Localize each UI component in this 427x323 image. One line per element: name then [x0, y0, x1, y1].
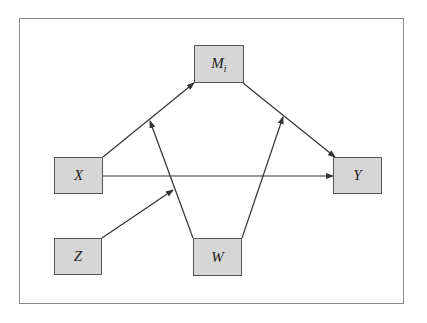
- node-subscript: i: [224, 63, 227, 74]
- node-x: X: [54, 157, 103, 194]
- edge-x-to-m: [103, 83, 194, 157]
- node-label: W: [211, 249, 224, 266]
- node-label: Z: [74, 248, 82, 265]
- edge-z-to-w-x-m-path: [102, 190, 173, 238]
- edge-w-to-m-y-path: [242, 117, 283, 238]
- node-z: Z: [54, 238, 102, 275]
- edge-w-to-x-m-path: [150, 121, 193, 238]
- node-label: X: [74, 167, 83, 184]
- node-m: Mi: [194, 45, 244, 83]
- node-label: Mi: [211, 55, 226, 74]
- node-w: W: [193, 238, 242, 276]
- edge-m-to-y: [243, 83, 335, 157]
- node-y: Y: [333, 157, 382, 194]
- node-label: Y: [353, 167, 361, 184]
